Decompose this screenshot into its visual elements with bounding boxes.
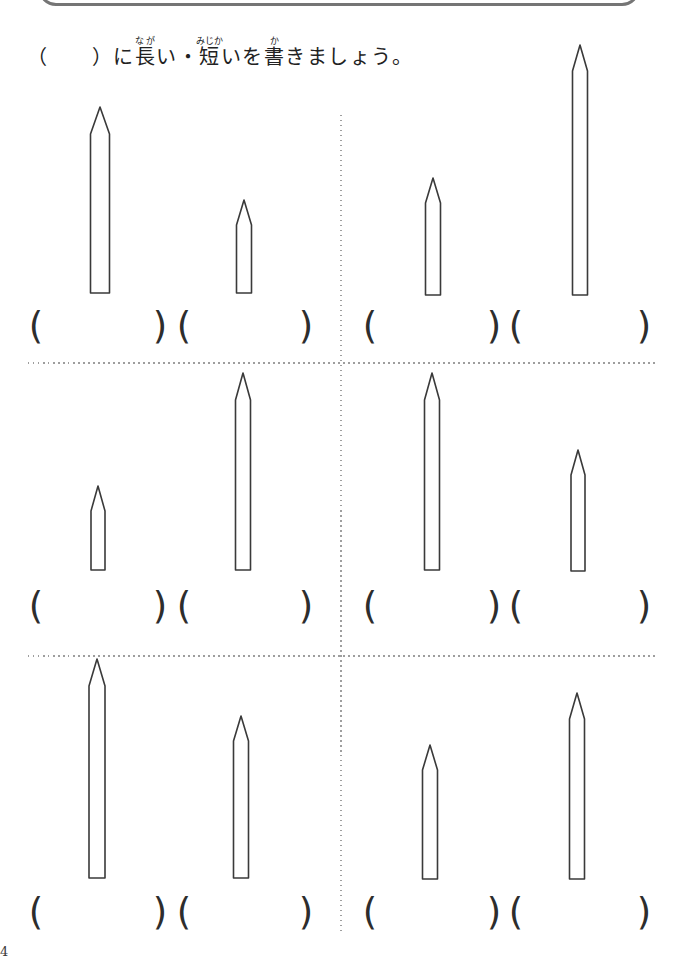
answer-paren-close-bottom-left-1: ) [153,894,167,931]
pencil-top-right-long [573,45,588,295]
answer-paren-open-bottom-right-2: ( [509,894,523,931]
answer-paren-open-bottom-left-2: ( [177,894,191,931]
pencil-bottom-left-short [234,716,249,878]
answer-paren-open-top-left-2: ( [177,308,191,345]
answer-paren-close-top-right-2: ) [637,308,651,345]
column-divider-dotted [340,115,342,933]
answer-paren-close-middle-left-1: ) [153,588,167,625]
answer-paren-close-bottom-right-2: ) [637,894,651,931]
answer-paren-close-top-left-1: ) [153,308,167,345]
pencil-top-right-short [426,178,441,295]
answer-paren-open-bottom-left-1: ( [29,894,43,931]
answer-paren-close-top-right-1: ) [487,308,501,345]
answer-paren-close-bottom-right-1: ) [487,894,501,931]
pencil-top-left-long [91,107,110,293]
pencil-middle-left-long [236,373,251,570]
pencil-bottom-right-long [570,693,585,879]
pencil-bottom-left-long [89,659,105,878]
answer-paren-open-middle-left-1: ( [29,588,43,625]
pencil-middle-left-short [91,486,105,570]
page-number: 4 [0,944,8,959]
answer-paren-open-middle-left-2: ( [177,588,191,625]
answer-paren-open-top-right-2: ( [509,308,523,345]
pencil-middle-right-long [425,373,440,570]
answer-paren-close-middle-right-1: ) [487,588,501,625]
answer-paren-open-bottom-right-1: ( [363,894,377,931]
answer-paren-open-middle-right-1: ( [363,588,377,625]
answer-paren-close-top-left-2: ) [299,308,313,345]
answer-paren-close-middle-left-2: ) [299,588,313,625]
answer-paren-open-top-right-1: ( [363,308,377,345]
row-divider-dotted [28,362,658,364]
pencil-bottom-right-short [423,745,438,879]
pencil-top-left-short [237,200,252,293]
answer-paren-close-middle-right-2: ) [637,588,651,625]
answer-paren-open-middle-right-2: ( [509,588,523,625]
row-divider-dotted [28,655,658,657]
pencil-middle-right-short [571,450,585,571]
answer-paren-open-top-left-1: ( [29,308,43,345]
answer-paren-close-bottom-left-2: ) [299,894,313,931]
worksheet-page: （ ）に長ながい・短みじかいを書かきましょう。 ()()()()()()()()… [0,0,681,960]
